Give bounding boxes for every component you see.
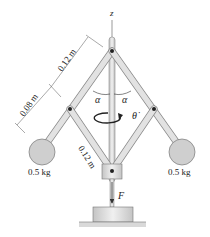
pivot-top bbox=[110, 49, 114, 53]
z-axis-label: z bbox=[109, 8, 114, 18]
upper-arm-dimension: 0.12 m bbox=[55, 47, 78, 73]
pivot-left bbox=[68, 107, 72, 111]
extension-dimension: 0.08 m bbox=[17, 92, 40, 118]
pivot-collar bbox=[110, 169, 114, 173]
alpha-left-label: α bbox=[95, 94, 101, 105]
ground bbox=[79, 222, 146, 227]
force-label: F bbox=[117, 190, 125, 201]
ball-left bbox=[29, 139, 55, 165]
mass-right-label: 0.5 kg bbox=[168, 167, 191, 177]
upper-arm-left bbox=[42, 51, 112, 150]
ball-right bbox=[169, 139, 195, 165]
theta-dot-label: θ̇ bbox=[132, 110, 140, 121]
dimension-extension: 0.08 m bbox=[15, 87, 51, 133]
z-axis: z bbox=[109, 8, 114, 37]
rotation-arrow-icon bbox=[94, 113, 123, 123]
pivot-right bbox=[152, 107, 156, 111]
mechanism-diagram: z F 0.5 kg 0.5 kg α α bbox=[0, 0, 210, 237]
mass-left-label: 0.5 kg bbox=[28, 167, 51, 177]
alpha-right-label: α bbox=[122, 94, 128, 105]
base-block bbox=[93, 207, 133, 222]
dimension-upper-arm: 0.12 m bbox=[49, 35, 103, 97]
